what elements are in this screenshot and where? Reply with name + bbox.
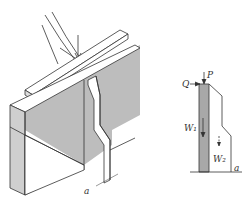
label-Q: Q [182,79,190,89]
label-W1: W₁ [184,123,197,133]
column-section [199,84,209,172]
ground-line [110,138,135,150]
label-P: P [206,70,214,80]
arrow-head-icon [218,142,221,146]
cable-line [42,25,58,64]
arrow-head-icon [202,79,206,84]
label-a: a [234,163,239,173]
cable-line [45,15,75,60]
cable-line [52,12,80,58]
label-W2: W₂ [213,154,226,164]
dimension-label-a: a [84,186,89,196]
diagram-canvas: a P Q W₁ W₂ a [0,0,252,208]
wall-end-face [10,105,25,195]
left-isometric-view [10,12,140,195]
